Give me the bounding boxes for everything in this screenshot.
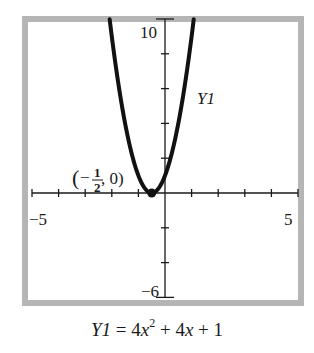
vertex-frac-num: 1: [94, 165, 101, 180]
caption-constant: 1: [214, 319, 224, 340]
y-min-label: −6: [141, 282, 159, 301]
caption-var2: x: [185, 319, 193, 340]
vertex-minus: −: [80, 168, 90, 187]
caption-coef1: 4: [131, 319, 141, 340]
caption-lhs: Y1: [91, 319, 111, 340]
vertex-rest: , 0): [101, 169, 124, 188]
caption-equals: =: [116, 319, 127, 340]
curve-name-label: Y1: [197, 89, 215, 108]
vertex-frac-den: 2: [94, 180, 101, 195]
y-max-label: 10: [140, 23, 157, 42]
vertex-paren-open: (: [72, 165, 79, 190]
x-max-label: 5: [284, 210, 293, 229]
caption-var1: x: [141, 319, 149, 340]
vertex-point: [147, 189, 156, 198]
caption-exp: 2: [149, 316, 155, 330]
caption-plus1: +: [160, 319, 171, 340]
graphing-calculator-plot: 10 −6 −5 5 Y1 ( − 1 2 , 0): [0, 0, 314, 353]
x-min-label: −5: [29, 210, 47, 229]
caption-coef2: 4: [175, 319, 185, 340]
equation-caption: Y1 = 4x2 + 4x + 1: [0, 318, 314, 341]
plot-frame: [25, 19, 301, 303]
caption-plus2: +: [198, 319, 209, 340]
